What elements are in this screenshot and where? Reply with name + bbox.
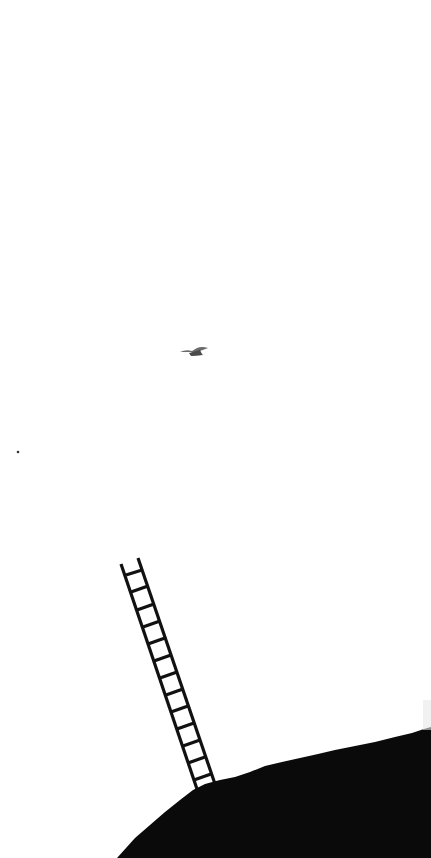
hill-edge-haze [423, 700, 431, 730]
sky [0, 0, 431, 858]
speck [17, 451, 20, 454]
scene: Minimalist photo: a ladder leaning up fr… [0, 0, 431, 858]
